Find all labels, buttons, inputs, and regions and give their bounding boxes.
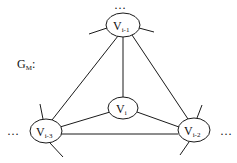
node-v-i-minus-3: Vi-3 — [30, 119, 62, 143]
ellipsis-right: … — [220, 124, 233, 138]
stub-right-up — [197, 105, 202, 118]
graph-label: GM: — [17, 57, 35, 72]
stub-edges — [40, 28, 202, 157]
graph-diagram: Vi-1 Vi Vi-3 Vi-2 GM: … … … — [0, 0, 237, 163]
stub-top-right — [139, 28, 154, 32]
stub-right-down — [180, 142, 189, 155]
node-v-i-minus-1: Vi-1 — [106, 13, 140, 37]
edge-top-right — [132, 35, 188, 119]
stub-left-down — [50, 143, 63, 157]
stub-left-up — [40, 104, 43, 119]
edge-center-left — [60, 112, 110, 127]
node-v-i-minus-2: Vi-2 — [178, 118, 210, 142]
node-v-i: Vi — [108, 97, 138, 119]
ellipsis-top: … — [114, 0, 127, 12]
edge-center-right — [137, 112, 179, 127]
stub-top-left — [89, 28, 107, 34]
ellipsis-left: … — [7, 124, 20, 138]
